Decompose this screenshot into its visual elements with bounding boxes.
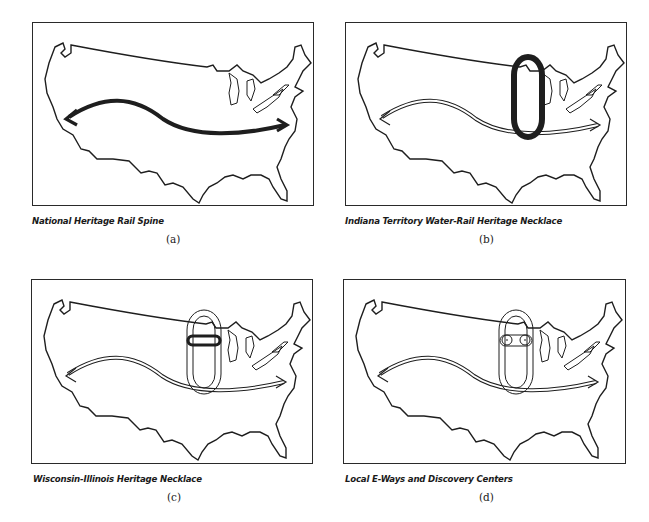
panel-label-d: (d) <box>479 491 494 503</box>
discovery-centers <box>502 335 530 345</box>
panel-label-c: (c) <box>167 491 181 503</box>
caption-d: Local E-Ways and Discovery Centers <box>345 474 513 484</box>
caption-c: Wisconsin-Illinois Heritage Necklace <box>33 474 202 484</box>
us-map-c <box>32 280 314 464</box>
map-frame-c <box>31 279 313 464</box>
caption-b: Indiana Territory Water-Rail Heritage Ne… <box>345 216 562 226</box>
panel-label-b: (b) <box>479 233 494 245</box>
map-frame-b <box>345 22 627 206</box>
map-frame-a <box>32 22 314 206</box>
caption-a: National Heritage Rail Spine <box>32 216 164 226</box>
rail-spine-outline <box>66 358 286 391</box>
rail-spine-outline <box>378 358 598 391</box>
rail-spine-arrow <box>66 101 287 134</box>
us-map-b <box>346 23 628 207</box>
map-frame-d <box>343 279 626 464</box>
us-map-d <box>344 280 627 464</box>
us-map-a <box>33 23 315 207</box>
rail-spine-outline <box>380 101 600 134</box>
panel-label-a: (a) <box>166 233 180 245</box>
